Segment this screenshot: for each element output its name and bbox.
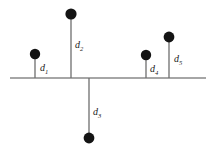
- label-d5: d5: [174, 53, 183, 66]
- label-d2: d2: [75, 39, 84, 52]
- label-d1-subscript: 1: [45, 68, 48, 75]
- distance-diagram: d1 d2 d3 d4: [0, 0, 211, 155]
- label-d1: d1: [40, 62, 48, 75]
- label-d3-subscript: 3: [97, 112, 102, 119]
- label-d4-subscript: 4: [155, 69, 159, 76]
- mass-d4: [141, 50, 151, 60]
- pendulum-d2: d2: [65, 8, 84, 78]
- label-d5-subscript: 5: [179, 59, 183, 66]
- label-d3: d3: [93, 106, 102, 119]
- pendulum-d1: d1: [30, 49, 48, 78]
- pendulum-d3: d3: [84, 78, 102, 143]
- pendulum-d4: d4: [141, 50, 159, 78]
- label-d4: d4: [150, 63, 159, 76]
- mass-d3: [84, 133, 95, 144]
- mass-d5: [164, 32, 175, 43]
- diagram-canvas: d1 d2 d3 d4: [0, 0, 211, 155]
- mass-d2: [65, 8, 76, 19]
- pendulum-d5: d5: [164, 32, 183, 78]
- label-d2-subscript: 2: [80, 45, 84, 52]
- mass-d1: [30, 49, 40, 59]
